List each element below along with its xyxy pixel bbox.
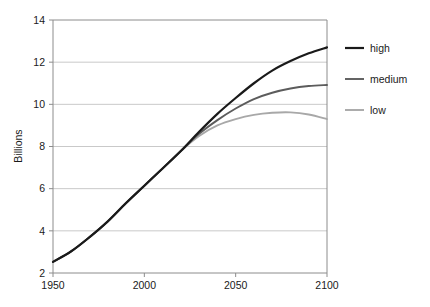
chart-background bbox=[0, 0, 430, 307]
y-tick-label-14: 14 bbox=[33, 14, 45, 26]
y-tick-label-10: 10 bbox=[33, 98, 45, 110]
population-projection-chart: 2468101214 1950200020502100 Billions hig… bbox=[0, 0, 430, 307]
y-tick-label-6: 6 bbox=[39, 182, 45, 194]
y-tick-label-8: 8 bbox=[39, 140, 45, 152]
y-tick-label-2: 2 bbox=[39, 267, 45, 279]
y-axis-title: Billions bbox=[12, 129, 24, 162]
legend-label-medium: medium bbox=[370, 73, 408, 85]
y-tick-label-4: 4 bbox=[39, 225, 45, 237]
x-tick-label-2000: 2000 bbox=[133, 279, 157, 291]
x-tick-label-2100: 2100 bbox=[315, 279, 339, 291]
legend-label-low: low bbox=[370, 104, 386, 116]
x-tick-label-2050: 2050 bbox=[224, 279, 248, 291]
x-tick-label-1950: 1950 bbox=[41, 279, 65, 291]
y-tick-label-12: 12 bbox=[33, 56, 45, 68]
chart-canvas: 2468101214 1950200020502100 Billions hig… bbox=[0, 0, 430, 307]
legend-label-high: high bbox=[370, 42, 390, 54]
